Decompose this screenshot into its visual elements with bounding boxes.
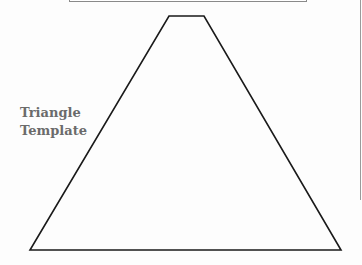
title-label: Triangle Template (20, 104, 87, 140)
title-line-2: Template (20, 122, 87, 140)
title-line-1: Triangle (20, 104, 87, 122)
